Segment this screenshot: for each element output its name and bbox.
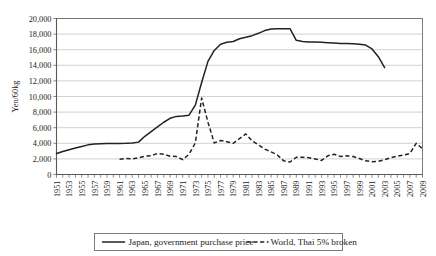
ytick-label-16000: 16,000 xyxy=(29,46,52,55)
xtick-label-1989: 1989 xyxy=(292,181,301,198)
xtick-label-2003: 2003 xyxy=(381,181,390,198)
rice-price-line-chart: 02,0004,0006,0008,00010,00012,00014,0001… xyxy=(0,0,436,256)
xtick-label-1975: 1975 xyxy=(204,181,213,198)
y-axis-title: Yen/60kg xyxy=(11,81,20,113)
xtick-label-1983: 1983 xyxy=(255,181,264,198)
xtick-label-1961: 1961 xyxy=(116,181,125,198)
xtick-label-1985: 1985 xyxy=(267,181,276,198)
xtick-label-2009: 2009 xyxy=(419,181,428,198)
chart-canvas: 02,0004,0006,0008,00010,00012,00014,0001… xyxy=(0,0,436,256)
xtick-label-1979: 1979 xyxy=(229,181,238,198)
xtick-label-1955: 1955 xyxy=(78,181,87,198)
xtick-label-1959: 1959 xyxy=(103,181,112,198)
ytick-label-12000: 12,000 xyxy=(29,77,52,86)
xtick-label-1993: 1993 xyxy=(318,181,327,198)
xtick-label-1995: 1995 xyxy=(330,181,339,198)
xtick-label-1965: 1965 xyxy=(141,181,150,198)
series-line-japan-gov xyxy=(57,29,385,154)
series-line-world-thai xyxy=(120,98,423,162)
xtick-label-2001: 2001 xyxy=(368,181,377,198)
xtick-label-2005: 2005 xyxy=(393,181,402,198)
ytick-label-20000: 20,000 xyxy=(29,15,52,24)
xtick-label-1987: 1987 xyxy=(280,181,289,198)
xtick-label-1991: 1991 xyxy=(305,181,314,198)
ytick-label-0: 0 xyxy=(47,171,51,180)
xtick-label-1969: 1969 xyxy=(166,181,175,198)
xtick-label-1951: 1951 xyxy=(53,181,62,198)
xtick-label-1981: 1981 xyxy=(242,181,251,198)
xtick-label-2007: 2007 xyxy=(406,181,415,198)
xtick-label-1973: 1973 xyxy=(192,181,201,198)
xtick-label-1967: 1967 xyxy=(154,181,163,198)
xtick-label-1963: 1963 xyxy=(128,181,137,198)
xtick-label-1977: 1977 xyxy=(217,181,226,198)
xtick-label-1999: 1999 xyxy=(356,181,365,198)
ytick-label-18000: 18,000 xyxy=(29,30,52,39)
legend-label-japan-gov: Japan, government purchase price xyxy=(129,237,254,247)
ytick-label-10000: 10,000 xyxy=(29,93,52,102)
xtick-label-1957: 1957 xyxy=(91,181,100,198)
xtick-label-1997: 1997 xyxy=(343,181,352,198)
ytick-label-8000: 8,000 xyxy=(33,108,52,117)
ytick-label-4000: 4,000 xyxy=(33,139,52,148)
ytick-label-6000: 6,000 xyxy=(33,124,52,133)
ytick-label-2000: 2,000 xyxy=(33,155,52,164)
legend-label-world-thai: World, Thai 5% broken xyxy=(271,237,358,247)
ytick-label-14000: 14,000 xyxy=(29,61,52,70)
xtick-label-1953: 1953 xyxy=(65,181,74,198)
xtick-label-1971: 1971 xyxy=(179,181,188,198)
